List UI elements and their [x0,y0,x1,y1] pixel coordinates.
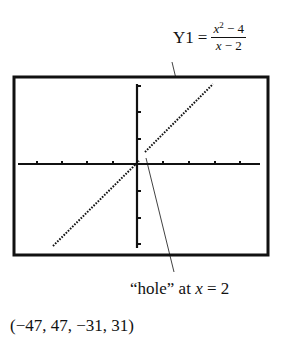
viewing-window-label: (−47, 47, −31, 31) [10,316,134,336]
function-label: Y1 = x2 − 4 x − 2 [173,22,246,53]
numerator-constant: − 4 [224,21,244,36]
function-name: Y1 [173,28,194,48]
calculator-screen-border [14,77,268,255]
numerator: x2 − 4 [211,22,246,38]
hole-variable: x [195,279,203,298]
hole-annotation: “hole” at x = 2 [130,279,229,299]
hole-value: = 2 [203,279,230,298]
denominator-constant: − 2 [221,38,241,53]
rational-expression: x2 − 4 x − 2 [211,22,246,53]
equals-sign: = [198,28,208,48]
hole-text: “hole” at [130,279,195,298]
denominator: x − 2 [216,38,242,53]
